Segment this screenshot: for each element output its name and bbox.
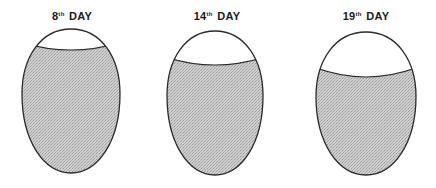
air-cell-boundary bbox=[17, 41, 125, 50]
egg-day-8 bbox=[17, 29, 125, 178]
eggs-illustration bbox=[0, 0, 436, 188]
egg-contents bbox=[17, 41, 125, 178]
egg-contents bbox=[162, 56, 268, 180]
egg-day-19 bbox=[311, 32, 421, 180]
egg-day-14 bbox=[162, 31, 268, 180]
egg-contents bbox=[311, 66, 421, 180]
